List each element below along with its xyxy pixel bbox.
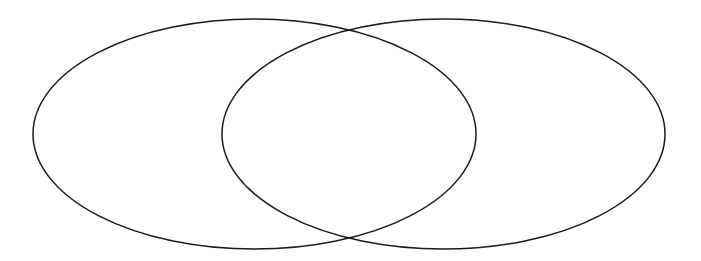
venn-diagram-canvas (0, 0, 701, 261)
venn-diagram (0, 0, 701, 261)
right-set-ellipse (222, 19, 665, 249)
left-set-ellipse (33, 19, 476, 249)
